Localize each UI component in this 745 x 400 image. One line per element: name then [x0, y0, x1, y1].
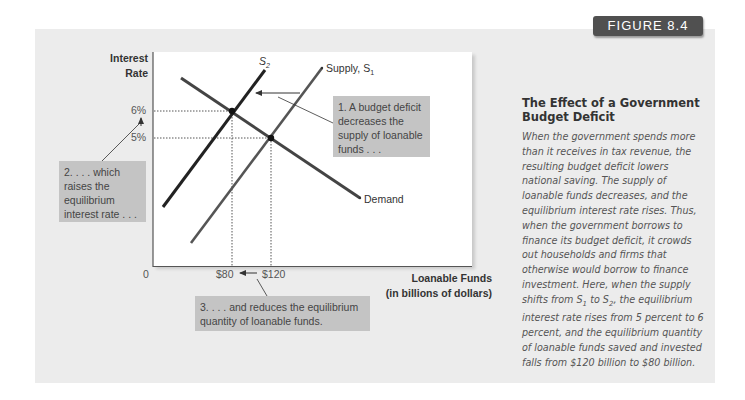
s2-label: S2 [259, 55, 270, 69]
guide-lines [154, 111, 271, 266]
y-axis-label: Interest Rate [100, 51, 148, 81]
y-axis-label-line1: Interest [100, 51, 148, 66]
x-axis-label-line1: Loanable Funds [370, 271, 492, 286]
caption: The Effect of a Government Budget Defici… [522, 96, 707, 371]
leader-note1 [278, 97, 333, 123]
demand-label: Demand [364, 193, 404, 205]
equilibrium-point-s2 [229, 108, 235, 114]
note-box-1: 1. A budget deficit decreases the supply… [333, 96, 430, 157]
x-axis-label-line2: (in billions of dollars) [370, 286, 492, 301]
caption-title: The Effect of a Government Budget Defici… [522, 96, 707, 124]
y-tick-6: 6% [131, 104, 146, 116]
figure-badge: FIGURE 8.4 [593, 16, 703, 36]
equilibrium-point-s1 [268, 135, 274, 141]
x-tick-80: $80 [216, 268, 234, 280]
s1-label: Supply, S1 [326, 62, 374, 76]
supply-s1-curve [191, 68, 322, 243]
leader-note3 [257, 279, 267, 296]
caption-body: When the government spends more than it … [522, 130, 707, 371]
note-box-2: 2. . . . which raises the equilibrium in… [59, 161, 146, 222]
x-axis-label: Loanable Funds (in billions of dollars) [370, 271, 492, 301]
y-tick-5: 5% [131, 131, 146, 143]
note-box-3: 3. . . . and reduces the equilibrium qua… [195, 296, 370, 331]
origin-label: 0 [143, 268, 149, 280]
x-tick-120: $120 [262, 268, 285, 280]
y-axis-label-line2: Rate [100, 66, 148, 81]
